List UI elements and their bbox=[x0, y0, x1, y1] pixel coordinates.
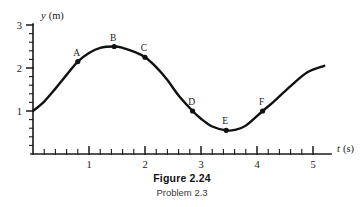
caption-number: 2.24 bbox=[190, 172, 211, 184]
x-tick-label-3: 3 bbox=[198, 159, 203, 170]
caption-subtitle: Problem 2.3 bbox=[0, 186, 364, 199]
data-point-label-c: C bbox=[141, 43, 147, 53]
x-tick-label-1: 1 bbox=[86, 159, 91, 170]
x-tick-label-2: 2 bbox=[142, 159, 147, 170]
data-point-b bbox=[112, 44, 117, 49]
caption-title-line: Figure2.24 bbox=[0, 172, 364, 185]
data-point-markers bbox=[75, 44, 265, 133]
data-point-label-b: B bbox=[110, 33, 116, 43]
x-axis-tick-labels: 12345 bbox=[86, 159, 315, 170]
caption-label: Figure bbox=[153, 172, 186, 184]
data-point-d bbox=[190, 108, 195, 113]
data-point-e bbox=[224, 128, 229, 133]
figure-caption: Figure2.24 Problem 2.3 bbox=[0, 172, 364, 199]
y-axis-title: y(m) bbox=[40, 10, 64, 22]
y-tick-label-2: 2 bbox=[17, 63, 22, 74]
x-tick-label-4: 4 bbox=[254, 159, 260, 170]
data-point-c bbox=[142, 55, 147, 60]
x-axis-title: t(s) bbox=[337, 143, 355, 155]
figure-page: 123 12345 y(m) t(s) ABCDEF Figure2.24 Pr… bbox=[0, 0, 364, 207]
y-tick-label-3: 3 bbox=[17, 20, 22, 31]
data-point-a bbox=[75, 59, 80, 64]
data-point-label-d: D bbox=[188, 97, 195, 107]
y-axis-tick-labels: 123 bbox=[17, 20, 22, 117]
data-point-label-a: A bbox=[73, 48, 80, 58]
data-point-f bbox=[260, 108, 265, 113]
data-point-label-e: E bbox=[222, 116, 228, 126]
data-curve bbox=[33, 47, 324, 131]
x-tick-label-5: 5 bbox=[310, 159, 315, 170]
data-point-label-f: F bbox=[259, 97, 264, 107]
y-tick-label-1: 1 bbox=[17, 106, 22, 117]
